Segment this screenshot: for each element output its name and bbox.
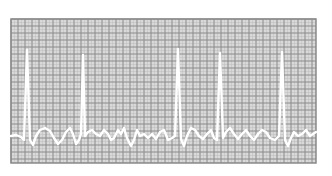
ecg-strip-chart bbox=[0, 0, 332, 176]
